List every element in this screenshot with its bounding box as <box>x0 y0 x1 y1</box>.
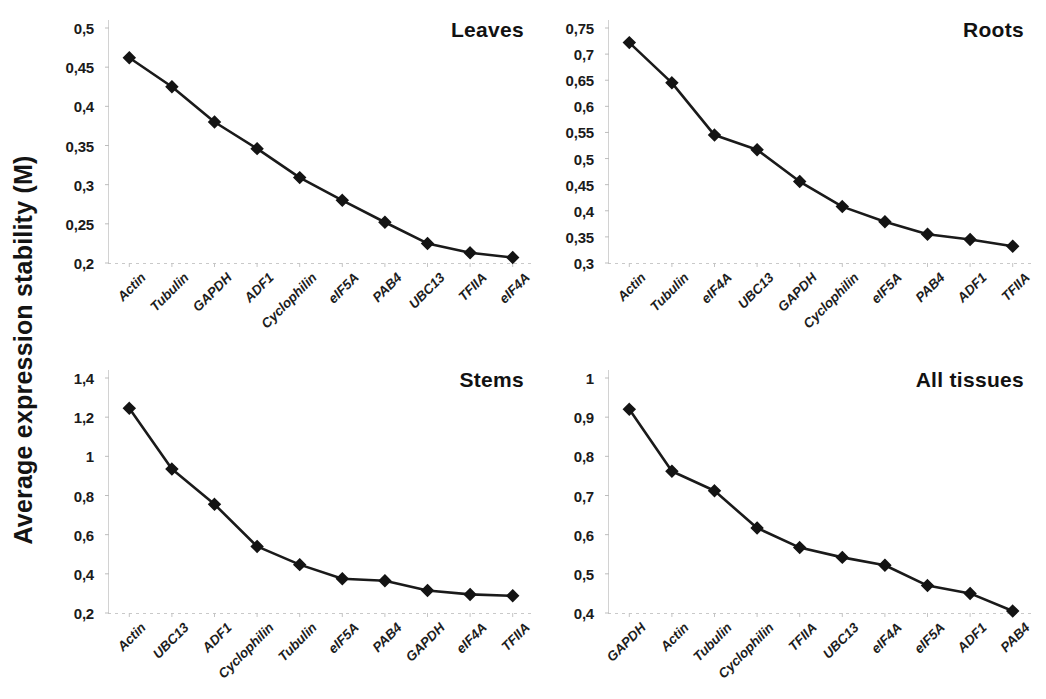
series-line <box>129 408 512 595</box>
series-line <box>629 43 1012 247</box>
y-axis-title: Average expression stability (M) <box>0 0 46 699</box>
diamond-marker <box>465 589 476 600</box>
diamond-marker <box>965 234 976 245</box>
plot-area: 10,90,80,70,60,50,4 GAPDHActinTubulinCyc… <box>546 350 1046 699</box>
y-tick-label: 0,45 <box>66 59 94 76</box>
diamond-marker <box>337 573 348 584</box>
y-tick-label: 0,3 <box>574 255 594 272</box>
y-tick-label: 1,4 <box>74 370 94 387</box>
series-line <box>629 409 1012 611</box>
series-line <box>129 58 512 258</box>
diamond-marker <box>794 542 805 553</box>
y-tick-label: 0,9 <box>574 409 594 426</box>
diamond-marker <box>879 216 890 227</box>
y-tick-label: 0,5 <box>574 565 594 582</box>
plot-svg <box>46 0 546 349</box>
plot-svg <box>46 350 546 699</box>
y-tick-label: 0,45 <box>566 176 594 193</box>
y-tick-label: 0,4 <box>574 605 594 622</box>
y-tick-label: 1 <box>586 370 594 387</box>
chart-panel-roots: Roots 0,750,70,650,60,550,50,450,40,350,… <box>546 0 1046 349</box>
y-tick-labels: 1,41,210,80,60,40,2 <box>46 350 94 699</box>
diamond-marker <box>837 201 848 212</box>
y-tick-label: 0,6 <box>74 526 94 543</box>
y-tick-label: 0,55 <box>566 124 594 141</box>
y-tick-label: 0,6 <box>574 526 594 543</box>
diamond-marker <box>337 195 348 206</box>
diamond-marker <box>922 580 933 591</box>
y-tick-labels: 0,50,450,40,350,30,250,2 <box>46 0 94 349</box>
plot-svg <box>546 350 1046 699</box>
chart-panel-stems: Stems 1,41,210,80,60,40,2 ActinUBC13ADF1… <box>46 350 546 699</box>
chart-panel-grid: Leaves 0,50,450,40,350,30,250,2 ActinTub… <box>46 0 1046 699</box>
y-tick-label: 0,25 <box>66 215 94 232</box>
diamond-marker <box>1007 241 1018 252</box>
y-tick-label: 0,8 <box>574 448 594 465</box>
y-tick-label: 0,2 <box>74 255 94 272</box>
y-tick-label: 1 <box>86 448 94 465</box>
diamond-marker <box>507 252 518 263</box>
y-tick-labels: 0,750,70,650,60,550,50,450,40,350,3 <box>546 0 594 349</box>
diamond-marker <box>422 238 433 249</box>
y-tick-label: 0,3 <box>74 176 94 193</box>
y-axis-title-text: Average expression stability (M) <box>9 155 38 544</box>
diamond-marker <box>922 229 933 240</box>
chart-panel-leaves: Leaves 0,50,450,40,350,30,250,2 ActinTub… <box>46 0 546 349</box>
diamond-marker <box>837 552 848 563</box>
diamond-marker <box>465 247 476 258</box>
y-tick-label: 0,5 <box>74 20 94 37</box>
y-tick-label: 0,4 <box>74 565 94 582</box>
y-tick-label: 0,8 <box>74 487 94 504</box>
y-tick-label: 0,65 <box>566 72 594 89</box>
diamond-marker <box>294 559 305 570</box>
diamond-marker <box>965 588 976 599</box>
y-tick-labels: 10,90,80,70,60,50,4 <box>546 350 594 699</box>
plot-area: 1,41,210,80,60,40,2 ActinUBC13ADF1Cyclop… <box>46 350 546 699</box>
plot-area: 0,50,450,40,350,30,250,2 ActinTubulinGAP… <box>46 0 546 349</box>
y-tick-label: 0,75 <box>566 20 594 37</box>
plot-svg <box>546 0 1046 349</box>
y-tick-label: 0,4 <box>574 202 594 219</box>
diamond-marker <box>507 590 518 601</box>
y-tick-label: 0,5 <box>574 150 594 167</box>
y-tick-label: 0,6 <box>574 98 594 115</box>
y-tick-label: 1,2 <box>74 409 94 426</box>
diamond-marker <box>422 585 433 596</box>
y-tick-label: 0,35 <box>66 137 94 154</box>
diamond-marker <box>879 560 890 571</box>
y-tick-label: 0,7 <box>574 487 594 504</box>
diamond-marker <box>379 217 390 228</box>
plot-area: 0,750,70,650,60,550,50,450,40,350,3 Acti… <box>546 0 1046 349</box>
diamond-marker <box>1007 605 1018 616</box>
y-tick-label: 0,4 <box>74 98 94 115</box>
y-tick-label: 0,35 <box>566 228 594 245</box>
diamond-marker <box>379 575 390 586</box>
chart-panel-all-tissues: All tissues 10,90,80,70,60,50,4 GAPDHAct… <box>546 350 1046 699</box>
y-tick-label: 0,7 <box>574 46 594 63</box>
y-tick-label: 0,2 <box>74 605 94 622</box>
